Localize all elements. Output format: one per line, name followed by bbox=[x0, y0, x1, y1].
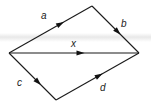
edge-a-line bbox=[9, 6, 92, 53]
edge-x: x bbox=[9, 38, 139, 56]
edge-x-arrowhead bbox=[77, 50, 85, 55]
edge-a: a bbox=[9, 6, 92, 53]
edge-b-label: b bbox=[121, 18, 127, 29]
edge-d: d bbox=[56, 53, 139, 100]
edge-b: b bbox=[92, 6, 139, 53]
edge-c-label: c bbox=[17, 77, 22, 88]
edge-d-arrowhead bbox=[94, 74, 102, 80]
edge-d-label: d bbox=[100, 82, 106, 93]
edge-a-label: a bbox=[41, 10, 47, 21]
edge-x-label: x bbox=[70, 38, 77, 49]
vector-diagram: a b x c d bbox=[0, 0, 151, 108]
edge-c: c bbox=[9, 53, 56, 100]
edge-a-arrowhead bbox=[56, 22, 64, 28]
